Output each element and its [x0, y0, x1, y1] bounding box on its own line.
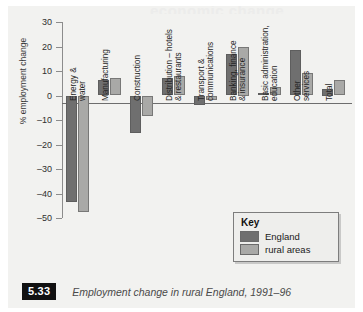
legend-label: England	[265, 231, 300, 242]
y-tick-label-5: –20	[6, 145, 52, 146]
category-label: Construction	[133, 55, 142, 101]
category-label: Basic administration,education	[261, 25, 279, 101]
y-tick-label-4: –10	[6, 120, 52, 121]
y-tick-6	[56, 169, 62, 170]
y-tick-4	[56, 120, 62, 121]
legend-swatch	[240, 244, 259, 255]
category-label: Manufacturing	[101, 49, 110, 101]
y-tick-label-6: –30	[6, 169, 52, 170]
category-label: Banking, finance& insurance	[229, 40, 247, 101]
page-edge-bottom	[0, 308, 363, 312]
bar-group	[65, 22, 97, 218]
page-edge-left	[0, 0, 8, 312]
y-tick-5	[56, 145, 62, 146]
category-label: Transport &communications	[197, 41, 215, 100]
y-tick-label-3: 0	[6, 96, 52, 97]
bar-england	[66, 96, 77, 203]
legend-key: Key Englandrural areas	[233, 212, 339, 262]
category-label: Energy &water	[69, 67, 87, 101]
legend-label: rural areas	[265, 244, 310, 255]
page-edge-top	[0, 0, 363, 6]
bar-rural-areas	[110, 78, 121, 95]
figure-caption: 5.33 Employment change in rural England,…	[22, 283, 291, 300]
y-tick-7	[56, 194, 62, 195]
y-tick-label-0: 30	[6, 22, 52, 23]
y-tick-1	[56, 47, 62, 48]
figure-caption-text: Employment change in rural England, 1991…	[72, 286, 291, 298]
bar-group	[321, 22, 353, 218]
legend-item: England	[240, 231, 332, 242]
figure-page: economic change % employment change 3020…	[0, 0, 363, 312]
bar-england	[130, 96, 141, 134]
y-tick-3	[56, 96, 62, 97]
legend-item: rural areas	[240, 244, 332, 255]
bar-rural-areas	[78, 96, 89, 212]
y-tick-label-2: 10	[6, 71, 52, 72]
y-tick-2	[56, 71, 62, 72]
y-tick-label-7: –40	[6, 194, 52, 195]
bar-rural-areas	[334, 80, 345, 96]
category-label: Otherservices	[293, 70, 311, 100]
figure-number: 5.33	[22, 283, 56, 300]
page-edge-right	[355, 0, 363, 312]
y-tick-0	[56, 22, 62, 23]
bar-group	[129, 22, 161, 218]
y-tick-label-8: –50	[6, 218, 52, 219]
bar-group	[289, 22, 321, 218]
y-axis-title: % employment change	[18, 6, 28, 156]
category-label: Total	[325, 83, 334, 100]
y-tick-8	[56, 218, 62, 219]
category-label: Distribution – hotels& restaurants	[165, 29, 183, 101]
legend-swatch	[240, 231, 259, 242]
y-tick-label-1: 20	[6, 47, 52, 48]
legend-title: Key	[241, 217, 332, 228]
bar-rural-areas	[142, 96, 153, 117]
